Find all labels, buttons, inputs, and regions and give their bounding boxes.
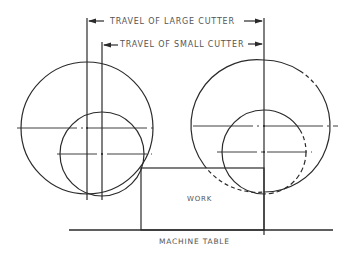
label-work: WORK: [187, 195, 212, 203]
arrow-left-icon: [88, 19, 96, 24]
travel-small-dimension: [102, 42, 263, 201]
travel-large-dimension: [87, 18, 264, 235]
arrow-right-icon: [255, 19, 263, 24]
cutter-travel-diagram: TRAVEL OF LARGE CUTTER TRAVEL OF SMALL C…: [0, 0, 354, 255]
label-travel-small: TRAVEL OF SMALL CUTTER: [119, 40, 244, 49]
label-travel-large: TRAVEL OF LARGE CUTTER: [109, 17, 235, 26]
arrow-left-icon: [103, 43, 111, 48]
arrow-right-icon: [255, 42, 263, 47]
label-machine-table: MACHINE TABLE: [159, 237, 230, 246]
